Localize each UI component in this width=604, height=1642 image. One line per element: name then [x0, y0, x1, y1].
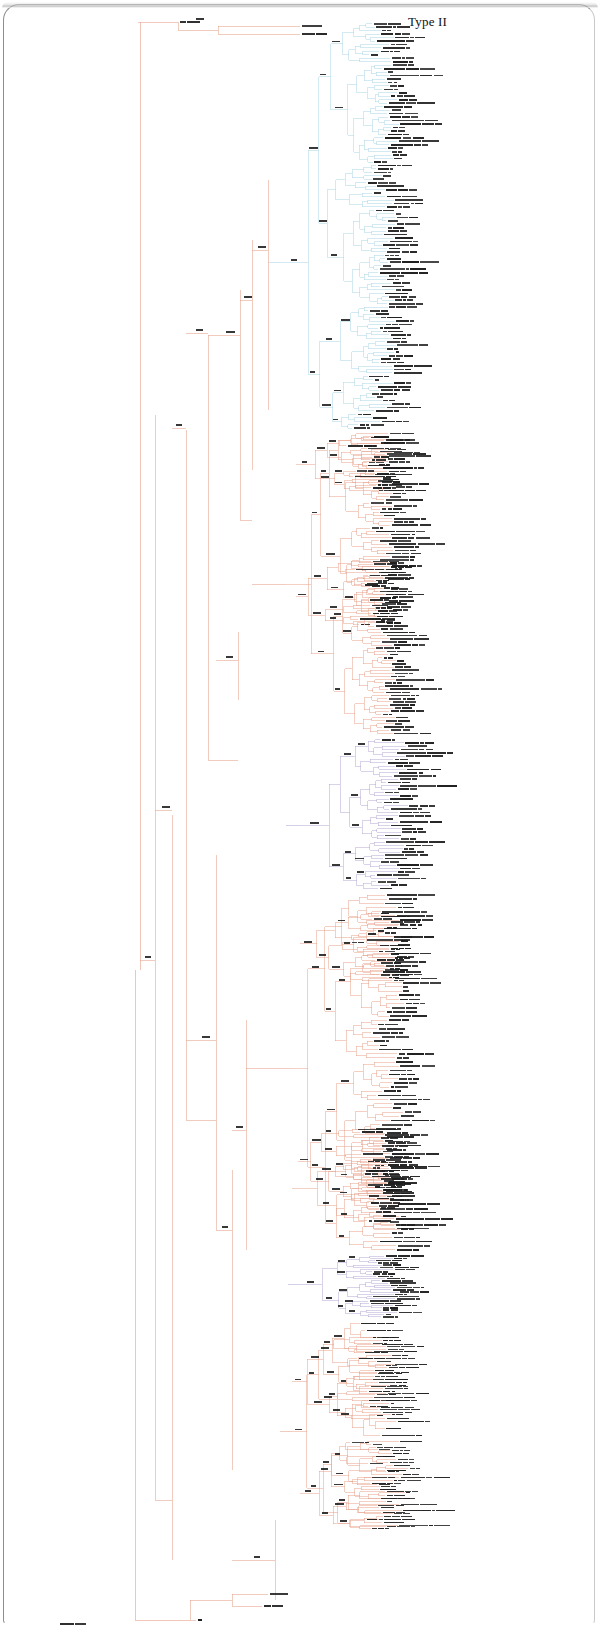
tip-label [386, 1428, 401, 1430]
tip-label [383, 400, 394, 402]
tip-label [395, 759, 408, 761]
tip-label [389, 1367, 419, 1369]
tip-label [381, 913, 389, 915]
tip-label [380, 559, 414, 561]
node-support-label [326, 1008, 332, 1010]
node-support-label [309, 1372, 314, 1374]
tip-label [400, 123, 442, 125]
tip-label [394, 1237, 420, 1239]
tip-label [391, 144, 428, 146]
tip-label [389, 898, 417, 900]
tip-label [387, 348, 397, 350]
tip-label [383, 331, 403, 333]
tip-label [369, 1391, 395, 1393]
tip-label [378, 1095, 416, 1097]
tip-label [396, 717, 407, 719]
tip-label [392, 1450, 410, 1452]
tip-label [394, 505, 417, 507]
node-support-label [338, 920, 345, 922]
tip-label [384, 726, 414, 728]
node-support-label [322, 1168, 330, 1170]
tip-label [384, 1180, 395, 1182]
tip-label [393, 1453, 408, 1455]
tip-label [399, 92, 408, 94]
tip-label [402, 828, 422, 830]
tip-label [382, 1337, 395, 1339]
tip-label [383, 1340, 401, 1342]
tip-label [393, 338, 406, 340]
tip-label [396, 351, 399, 353]
tip-label [270, 1593, 288, 1595]
tip-label [399, 140, 440, 142]
tip-label [376, 210, 394, 212]
node-support-label [226, 656, 233, 658]
tree-branches [135, 22, 408, 1620]
node-support-label [295, 1429, 302, 1431]
tip-label [372, 605, 389, 607]
tip-label [390, 798, 412, 800]
tip-label [401, 749, 433, 751]
tip-label [400, 812, 430, 814]
tip-label [376, 621, 393, 623]
node-support-label [337, 1271, 345, 1273]
tip-label [377, 1415, 383, 1417]
figure-page: Type II [0, 0, 604, 1642]
tip-label [378, 484, 403, 486]
tip-label [394, 1082, 417, 1084]
tip-label [399, 815, 430, 817]
node-support-label [335, 688, 340, 690]
tip-label [397, 616, 403, 618]
tip-label [388, 1349, 404, 1351]
tip-label [386, 439, 410, 441]
node-support-label [244, 296, 252, 298]
tip-label [386, 720, 410, 722]
tip-label [384, 1516, 411, 1518]
node-support-label [357, 871, 364, 873]
tip-label [388, 1471, 399, 1473]
tip-label [401, 1115, 414, 1117]
tip-label [394, 1258, 407, 1260]
tip-label [381, 358, 400, 360]
tip-label [395, 1161, 412, 1163]
tip-label [400, 778, 417, 780]
node-support-label [335, 1453, 340, 1455]
tip-label [385, 1156, 408, 1158]
node-support-label [222, 1226, 228, 1228]
tip-label [368, 182, 396, 184]
tip-label [383, 175, 390, 177]
node-support-label [351, 794, 358, 796]
tip-label [386, 841, 445, 843]
tip-label [400, 868, 420, 870]
tip-label [389, 303, 424, 305]
tip-label [398, 907, 415, 909]
tip-label [372, 1528, 388, 1530]
node-support-label [330, 617, 336, 619]
tip-label [367, 583, 394, 585]
tip-label [381, 916, 410, 918]
tip-label [391, 44, 407, 46]
node-support-label [258, 246, 266, 248]
tip-label [385, 137, 424, 139]
tip-label [394, 546, 419, 548]
tip-label [376, 625, 408, 627]
tip-label [356, 569, 400, 571]
tip-label [374, 1397, 414, 1399]
node-support-label [311, 1485, 316, 1487]
tip-label [395, 1305, 417, 1307]
tip-label [375, 1376, 397, 1378]
tip-label [396, 679, 433, 681]
tip-label [385, 792, 399, 794]
tip-label [360, 424, 384, 426]
tip-label [378, 881, 397, 883]
tip-label [383, 1412, 413, 1414]
tip-label [400, 1441, 421, 1443]
tip-label [376, 26, 410, 28]
tip-label [367, 1330, 403, 1332]
tip-label [401, 1504, 437, 1506]
tip-label [352, 942, 363, 944]
tip-label [388, 82, 397, 84]
node-support-label [336, 1163, 344, 1165]
tip-label [393, 596, 413, 598]
tip-label [380, 945, 405, 947]
tip-label [394, 372, 422, 374]
